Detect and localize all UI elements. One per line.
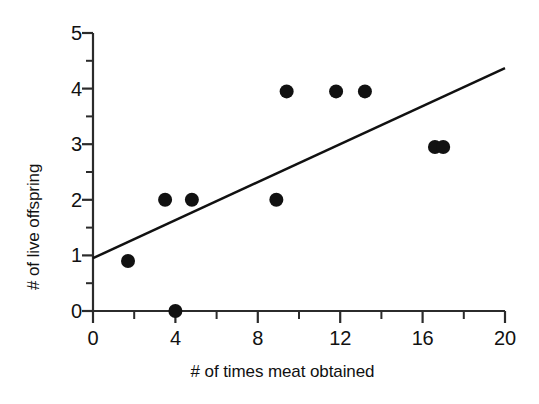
x-axis-title: # of times meat obtained [191,362,375,382]
y-tick-label: 3 [52,134,82,154]
data-points [121,84,450,318]
axis-lines [93,33,505,311]
x-tick-label: 16 [412,328,434,348]
scatter-plot-figure: 012345 048121620 # of times meat obtaine… [0,0,539,404]
x-tick-label: 8 [252,328,263,348]
data-point [168,304,182,318]
x-tick-label: 0 [88,328,99,348]
y-tick-label: 0 [52,301,82,321]
data-point [280,84,294,98]
x-tick-label: 20 [494,328,516,348]
data-point [269,193,283,207]
data-point [158,193,172,207]
x-tick-label: 12 [329,328,351,348]
data-point [358,84,372,98]
y-tick-label: 4 [52,79,82,99]
data-point [121,254,135,268]
data-point [436,140,450,154]
data-point [185,193,199,207]
y-axis-title: # of live offspring [24,164,44,290]
y-tick-label: 5 [52,23,82,43]
x-tick-label: 4 [170,328,181,348]
y-tick-label: 2 [52,190,82,210]
regression-line [93,68,505,258]
data-point [329,84,343,98]
y-tick-label: 1 [52,245,82,265]
tick-marks [82,33,505,323]
trend-line [93,68,505,258]
